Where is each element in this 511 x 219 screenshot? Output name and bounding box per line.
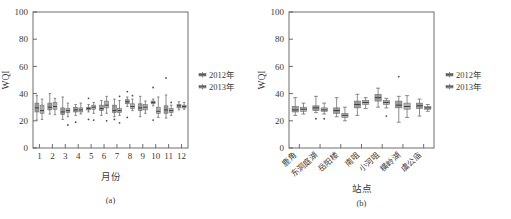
y-tick-label: 100 xyxy=(15,7,29,17)
x-tick-label: 9 xyxy=(141,151,146,161)
box-2013-2 xyxy=(53,98,57,114)
box-2013-岳阳楼 xyxy=(342,107,348,121)
panel-a: 020406080100123456789101112WQI月份(a)2012年… xyxy=(0,0,255,219)
y-tick-label: 60 xyxy=(19,62,29,72)
y-tick-label: 40 xyxy=(275,89,285,99)
x-tick-label: 虞公庙 xyxy=(398,150,423,173)
box-2013-10 xyxy=(156,97,160,117)
panel-b: 020406080100鹿角东洞庭湖岳阳楼南咀小河咀横岭湖虞公庙WQI站点(b)… xyxy=(256,0,511,219)
legend-label: 2012年 xyxy=(456,70,482,80)
legend-item-2013年: 2013年 xyxy=(199,82,235,92)
box-body xyxy=(292,107,298,112)
x-tick-label: 横岭湖 xyxy=(378,150,403,173)
box-2013-小河咀 xyxy=(383,98,389,117)
y-tick-label: 40 xyxy=(19,89,29,99)
panel-caption: (a) xyxy=(106,195,116,205)
box-2013-4 xyxy=(79,103,83,114)
y-tick-label: 20 xyxy=(275,116,285,126)
boxplot-chart-a: 020406080100123456789101112WQI月份(a)2012年… xyxy=(0,0,255,219)
box-body xyxy=(138,104,142,111)
outlier-point xyxy=(126,117,128,119)
box-2012-1 xyxy=(35,96,39,120)
x-tick-label: 10 xyxy=(151,151,161,161)
box-2013-东洞庭湖 xyxy=(321,103,327,120)
outlier-point xyxy=(398,76,400,78)
box-2013-1 xyxy=(40,99,44,119)
outlier-point xyxy=(126,91,128,93)
box-2012-4 xyxy=(74,104,78,123)
box-2012-鹿角 xyxy=(292,98,298,116)
box-2012-岳阳楼 xyxy=(334,98,340,117)
legend-label: 2013年 xyxy=(209,82,235,92)
outlier-point xyxy=(75,121,77,123)
boxplot-chart-b: 020406080100鹿角东洞庭湖岳阳楼南咀小河咀横岭湖虞公庙WQI站点(b)… xyxy=(256,0,511,219)
x-tick-label: 6 xyxy=(102,151,107,161)
x-tick-label: 11 xyxy=(164,151,173,161)
plot-frame xyxy=(289,12,434,148)
x-tick-label: 7 xyxy=(115,151,120,161)
outlier-point xyxy=(165,77,167,79)
plot-frame xyxy=(33,12,188,148)
x-tick-label: 5 xyxy=(89,151,94,161)
box-2012-12 xyxy=(177,102,181,110)
panel-caption: (b) xyxy=(357,198,367,208)
legend-item-2013年: 2013年 xyxy=(446,82,482,92)
box-2012-小河咀 xyxy=(375,88,381,107)
outlier-point xyxy=(132,95,134,97)
outlier-point xyxy=(113,119,115,121)
x-axis-title: 月份 xyxy=(101,171,121,182)
box-2012-东洞庭湖 xyxy=(313,96,319,119)
y-tick-label: 0 xyxy=(24,143,29,153)
outlier-point xyxy=(106,120,108,122)
box-body xyxy=(61,108,65,115)
x-tick-label: 3 xyxy=(63,151,68,161)
legend-item-2012年: 2012年 xyxy=(446,70,482,80)
box-2012-5 xyxy=(87,97,91,120)
y-tick-label: 80 xyxy=(275,34,285,44)
x-axis-title: 站点 xyxy=(352,183,372,194)
x-tick-label: 岳阳楼 xyxy=(316,150,341,173)
legend-item-2012年: 2012年 xyxy=(199,70,235,80)
x-tick-label: 小河咀 xyxy=(357,150,382,173)
box-2012-南咀 xyxy=(354,94,360,115)
outlier-point xyxy=(88,97,90,99)
box-body xyxy=(40,105,44,113)
outlier-point xyxy=(385,115,387,117)
figure-container: 020406080100123456789101112WQI月份(a)2012年… xyxy=(0,0,511,219)
x-tick-label: 4 xyxy=(76,151,81,161)
outlier-point xyxy=(119,95,121,97)
y-tick-label: 20 xyxy=(19,116,29,126)
box-2012-2 xyxy=(48,94,52,114)
outlier-point xyxy=(67,124,69,126)
box-2013-11 xyxy=(169,102,173,116)
box-2013-南咀 xyxy=(363,98,369,109)
outlier-point xyxy=(152,119,154,121)
legend-label: 2012年 xyxy=(209,70,235,80)
x-tick-label: 2 xyxy=(50,151,55,161)
legend-label: 2013年 xyxy=(456,82,482,92)
box-body xyxy=(53,102,57,109)
box-body xyxy=(112,105,116,112)
outlier-point xyxy=(170,102,172,104)
box-2013-横岭湖 xyxy=(404,96,410,118)
x-tick-label: 1 xyxy=(37,151,42,161)
box-body xyxy=(100,105,104,110)
outlier-point xyxy=(323,118,325,120)
y-tick-label: 60 xyxy=(275,62,285,72)
outlier-point xyxy=(315,118,317,120)
box-2013-5 xyxy=(92,102,96,121)
box-2013-9 xyxy=(143,101,147,113)
outlier-point xyxy=(88,119,90,121)
box-2013-12 xyxy=(182,102,186,109)
box-2012-7 xyxy=(112,99,116,120)
y-axis-title: WQI xyxy=(257,71,267,90)
y-tick-label: 100 xyxy=(271,7,285,17)
box-body xyxy=(396,101,402,108)
y-tick-label: 0 xyxy=(280,143,285,153)
box-2012-3 xyxy=(61,97,65,119)
box-2013-7 xyxy=(118,95,122,123)
box-2013-3 xyxy=(66,103,70,126)
y-tick-label: 80 xyxy=(19,34,29,44)
box-2012-8 xyxy=(125,91,129,119)
box-2012-11 xyxy=(164,77,168,118)
